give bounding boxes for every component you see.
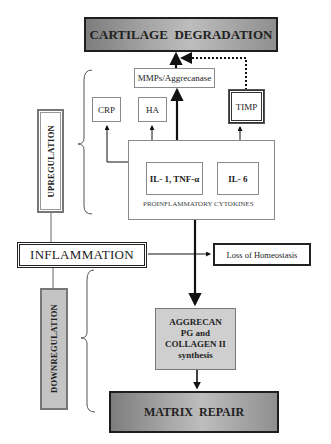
- ha-label: HA: [146, 105, 159, 115]
- crp-box: CRP: [92, 97, 121, 122]
- loss-of-homeostasis-label: Loss of Homeostasis: [227, 250, 298, 260]
- il6-box: IL- 6: [217, 162, 259, 195]
- il6-label: IL- 6: [228, 174, 247, 184]
- matrix-repair-box: MATRIX REPAIR: [109, 391, 279, 433]
- downregulation-box: DOWNREGULATION: [40, 288, 68, 410]
- crp-label: CRP: [98, 105, 115, 115]
- inflammation-label: INFLAMMATION: [30, 247, 134, 263]
- cartilage-degradation-label: CARTILAGE DEGRADATION: [90, 27, 273, 43]
- inflammation-box: INFLAMMATION: [17, 242, 147, 268]
- upregulation-brace: [78, 70, 92, 214]
- synthesis-line-3: COLLAGEN II: [165, 339, 226, 350]
- synthesis-line-4: synthesis: [178, 350, 213, 361]
- synthesis-line-1: AGGRECAN: [169, 317, 222, 328]
- il1-tnf-label: IL- 1, TNF-α: [150, 174, 200, 184]
- il1-tnf-box: IL- 1, TNF-α: [146, 162, 203, 195]
- proinflammatory-cytokines-group: IL- 1, TNF-α IL- 6 PROINFLAMMATORY CYTOK…: [128, 140, 275, 220]
- timp-box: TIMP: [229, 90, 264, 123]
- downregulation-label: DOWNREGULATION: [49, 304, 59, 393]
- mmps-box: MMPs/Aggrecanase: [134, 68, 215, 88]
- ha-box: HA: [138, 97, 167, 122]
- synthesis-line-2: PG and: [181, 328, 210, 339]
- upregulation-label: UPREGULATION: [46, 125, 56, 197]
- timp-label: TIMP: [236, 102, 258, 112]
- matrix-repair-label: MATRIX REPAIR: [144, 405, 244, 420]
- mmps-label: MMPs/Aggrecanase: [138, 73, 212, 83]
- downregulation-brace: [81, 270, 95, 412]
- cartilage-degradation-box: CARTILAGE DEGRADATION: [84, 17, 278, 52]
- loss-of-homeostasis-box: Loss of Homeostasis: [213, 243, 311, 266]
- aggrecan-synthesis-box: AGGRECAN PG and COLLAGEN II synthesis: [155, 308, 236, 370]
- upregulation-box: UPREGULATION: [37, 109, 64, 213]
- proinflammatory-cytokines-label: PROINFLAMMATORY CYTOKINES: [143, 200, 275, 208]
